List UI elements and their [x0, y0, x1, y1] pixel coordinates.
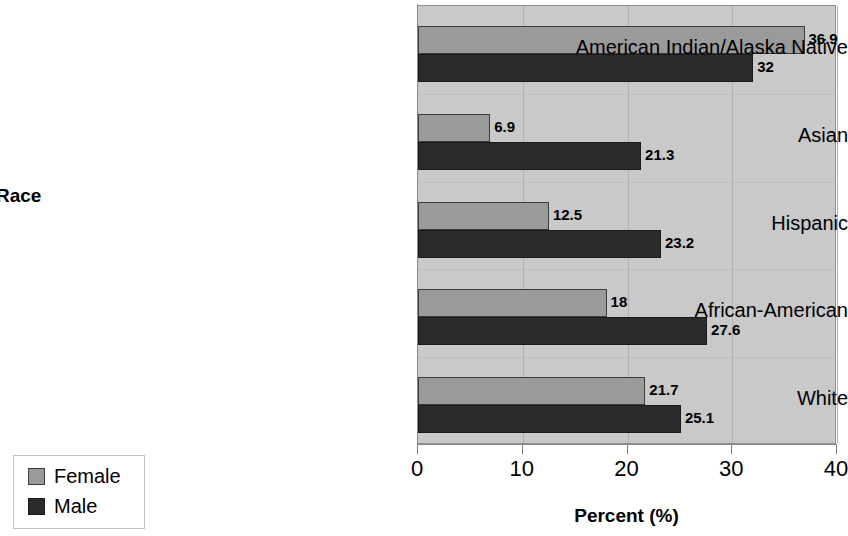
legend: Female Male [13, 455, 145, 529]
x-tick-mark [731, 445, 732, 454]
x-tick-label: 20 [597, 458, 657, 480]
bar-value-label: 12.5 [553, 207, 582, 222]
legend-item-male: Male [28, 496, 97, 516]
x-tick-mark [417, 445, 418, 454]
bar-chart: 010203040American Indian/Alaska Native36… [0, 0, 848, 536]
bar-value-label: 18 [611, 294, 628, 309]
bar-male [418, 54, 753, 82]
category-label: Hispanic [433, 213, 848, 233]
x-tick-label: 10 [492, 458, 552, 480]
bar-male [418, 230, 661, 258]
category-label: American Indian/Alaska Native [433, 37, 848, 57]
legend-swatch-male-icon [28, 498, 45, 515]
x-tick-label: 30 [701, 458, 761, 480]
x-tick-mark [627, 445, 628, 454]
x-axis-title: Percent (%) [417, 505, 836, 527]
x-tick-mark [836, 445, 837, 454]
legend-label-female: Female [54, 466, 121, 486]
legend-swatch-female-icon [28, 468, 45, 485]
x-tick-mark [522, 445, 523, 454]
bar-male [418, 317, 707, 345]
bar-male [418, 405, 681, 433]
y-axis-title: Race [0, 185, 41, 207]
legend-item-female: Female [28, 466, 121, 486]
bar-value-label: 21.3 [645, 147, 674, 162]
bar-value-label: 27.6 [711, 322, 740, 337]
bar-value-label: 36.9 [809, 31, 838, 46]
legend-label-male: Male [54, 496, 97, 516]
bar-value-label: 25.1 [685, 410, 714, 425]
category-separator [418, 94, 835, 95]
bar-male [418, 142, 641, 170]
category-separator [418, 269, 835, 270]
bar-value-label: 21.7 [649, 382, 678, 397]
x-tick-label: 40 [806, 458, 848, 480]
category-label: African-American [433, 300, 848, 320]
category-label: White [433, 388, 848, 408]
category-separator [418, 182, 835, 183]
bar-value-label: 32 [757, 59, 774, 74]
category-separator [418, 357, 835, 358]
bar-value-label: 23.2 [665, 235, 694, 250]
bar-value-label: 6.9 [494, 119, 515, 134]
y-axis-line [417, 4, 418, 446]
x-tick-label: 0 [387, 458, 447, 480]
